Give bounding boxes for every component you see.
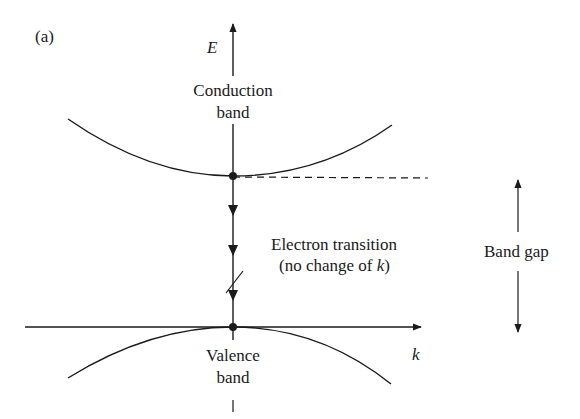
transition-label-prefix: (no change of (279, 256, 377, 275)
conduction-minimum-dashed-line (233, 177, 428, 178)
panel-label: (a) (35, 27, 54, 47)
transition-leader-line (226, 271, 243, 293)
transition-label-line2: (no change of k) (279, 256, 390, 276)
transition-label-suffix: ) (384, 256, 390, 275)
band-diagram (0, 0, 580, 419)
conduction-band-label-line1: Conduction (193, 81, 272, 101)
conduction-minimum-point (229, 172, 237, 180)
valence-band-label-line1: Valence (206, 346, 260, 366)
conduction-band-curve (68, 119, 392, 176)
valence-maximum-point (229, 323, 237, 331)
conduction-band-label-line2: band (216, 103, 249, 123)
transition-label-line1: Electron transition (271, 235, 397, 255)
transition-arrowhead-2 (228, 245, 238, 256)
valence-band-label-line2: band (216, 368, 249, 388)
transition-arrowhead-1 (228, 205, 238, 216)
transition-arrowhead-3 (228, 290, 238, 301)
band-gap-label: Band gap (484, 242, 549, 262)
momentum-axis-label: k (412, 345, 420, 365)
energy-axis-label: E (207, 38, 217, 58)
